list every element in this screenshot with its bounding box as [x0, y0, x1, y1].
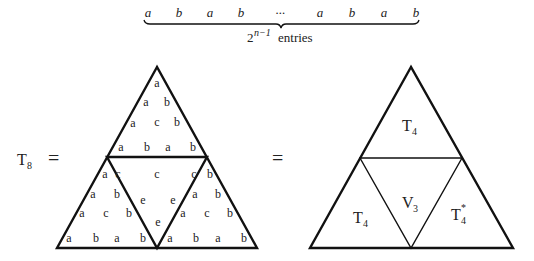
cell: a	[130, 116, 136, 130]
cell: b	[126, 206, 132, 220]
cell: a	[102, 167, 108, 181]
cell: b	[190, 140, 196, 154]
seq-item: a	[317, 5, 324, 20]
cell: a	[165, 140, 171, 154]
block-top-base: T	[402, 117, 412, 134]
equals-sign-1: =	[48, 147, 59, 169]
block-bottomleft-sub: 4	[363, 218, 368, 229]
cell: c	[154, 167, 159, 181]
cell: a	[192, 187, 198, 201]
block-bottomright-sub: 4	[461, 215, 466, 226]
cell: b	[114, 187, 120, 201]
cell: b	[140, 231, 146, 245]
underbrace	[144, 20, 419, 28]
cell: b	[215, 187, 221, 201]
cell: e	[155, 215, 160, 229]
seq-item: a	[145, 5, 152, 20]
seq-item: a	[207, 5, 214, 20]
cell: b	[193, 231, 199, 245]
seq-ellipsis: ···	[275, 5, 285, 20]
block-middle: V 3	[402, 194, 418, 214]
block-top-sub: 4	[412, 126, 417, 137]
cell: b	[207, 167, 213, 181]
cell: a	[167, 231, 173, 245]
sequence-header: a b a b ··· a b a b 2 n−1 entries	[144, 5, 420, 45]
seq-item: b	[176, 5, 183, 20]
block-bottom-right: T 4 *	[451, 202, 466, 226]
cell: c	[204, 206, 209, 220]
seq-item: b	[413, 5, 420, 20]
seq-item: a	[381, 5, 388, 20]
cell: a	[79, 206, 85, 220]
left-triangle: a a b a c b a b a b a c a b a c b a b a …	[57, 67, 257, 248]
brace-label-base: 2	[247, 30, 254, 45]
cell: b	[174, 115, 180, 129]
cell: a	[118, 140, 124, 154]
cell: a	[90, 187, 96, 201]
cell: c	[115, 167, 120, 181]
right-triangle: T 4 V 3 T 4 T 4 *	[310, 67, 513, 248]
cell: b	[144, 140, 150, 154]
brace-label-text: entries	[278, 30, 313, 45]
cell: a	[180, 206, 186, 220]
block-middle-sub: 3	[413, 203, 418, 214]
cell: a	[66, 231, 72, 245]
cell: c	[103, 206, 108, 220]
left-middle-subtriangle: c e e e	[140, 167, 175, 229]
equals-sign-2: =	[272, 147, 283, 169]
cell: a	[215, 231, 221, 245]
cell: b	[164, 95, 170, 109]
lhs-label: T 8 = =	[17, 147, 283, 171]
block-bottom-left: T 4	[353, 209, 368, 229]
seq-item: b	[349, 5, 356, 20]
block-bottomright-base: T	[451, 206, 461, 223]
cell: e	[140, 193, 145, 207]
cell: a	[114, 231, 120, 245]
block-bottomleft-base: T	[353, 209, 363, 226]
block-top: T 4	[402, 117, 417, 137]
cell: c	[191, 167, 196, 181]
lhs-base: T	[17, 151, 27, 168]
diagram-canvas: a b a b ··· a b a b 2 n−1 entries T 8 = …	[0, 0, 534, 261]
cell: c	[154, 115, 159, 129]
cell: a	[154, 76, 160, 90]
cell: b	[227, 206, 233, 220]
cell: a	[143, 95, 149, 109]
seq-item: b	[238, 5, 245, 20]
cell: b	[241, 231, 247, 245]
cell: b	[93, 231, 99, 245]
block-bottomright-sup: *	[461, 202, 466, 213]
lhs-subscript: 8	[27, 160, 32, 171]
cell: e	[170, 193, 175, 207]
brace-label-exponent: n−1	[254, 27, 271, 38]
